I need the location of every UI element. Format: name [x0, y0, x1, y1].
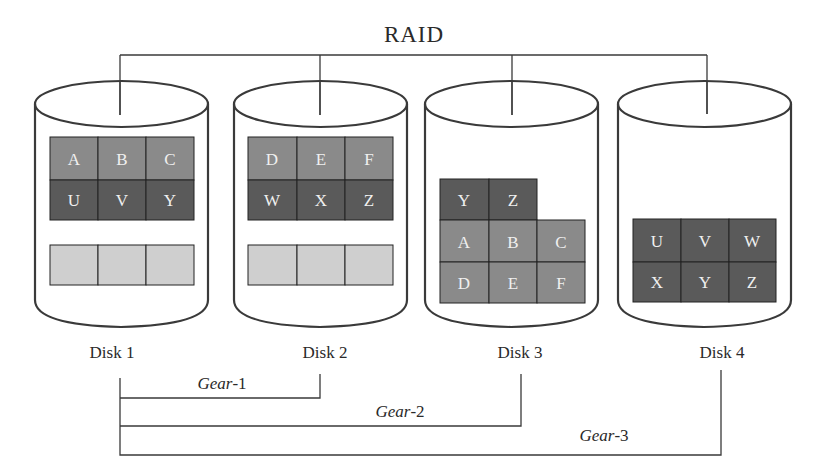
empty-block [248, 245, 297, 285]
block-label: E [508, 274, 518, 293]
disk-3: Y Z A B C D E F Disk 3 [425, 81, 598, 362]
block-label: Z [747, 273, 757, 292]
disk-2: D E F W X Z Disk 2 [234, 81, 407, 362]
gear-2-label: Gear-2 [375, 402, 424, 421]
disk-label: Disk 2 [303, 343, 348, 362]
block-label: A [68, 150, 81, 169]
gear-3-label: Gear-3 [579, 426, 628, 445]
disk-4: U V W X Y Z Disk 4 [618, 81, 791, 362]
disk-1: A B C U V Y Disk 1 [35, 81, 208, 362]
block-label: B [116, 150, 127, 169]
empty-block [297, 245, 345, 285]
block-label: D [458, 274, 470, 293]
empty-block [50, 245, 98, 285]
empty-block [98, 245, 146, 285]
disk-label: Disk 1 [90, 343, 135, 362]
block-label: Z [508, 191, 518, 210]
block-label: E [316, 150, 326, 169]
block-label: C [164, 150, 175, 169]
block-label: X [651, 273, 663, 292]
block-label: A [458, 233, 471, 252]
block-label: Z [364, 191, 374, 210]
block-label: B [507, 233, 518, 252]
block-label: U [651, 232, 663, 251]
block-label: V [699, 232, 712, 251]
block-label: W [744, 232, 761, 251]
empty-block [345, 245, 393, 285]
block-label: X [315, 191, 327, 210]
block-label: Y [458, 191, 470, 210]
disk-label: Disk 3 [498, 343, 543, 362]
disk-label: Disk 4 [700, 343, 745, 362]
raid-title: RAID [384, 22, 444, 47]
block-label: Y [699, 273, 711, 292]
block-label: C [555, 233, 566, 252]
block-label: F [364, 150, 373, 169]
block-label: F [556, 274, 565, 293]
block-label: U [68, 191, 80, 210]
empty-block [146, 245, 194, 285]
block-label: W [264, 191, 281, 210]
block-label: D [266, 150, 278, 169]
block-label: Y [164, 191, 176, 210]
gear-1-label: Gear-1 [197, 374, 246, 393]
raid-diagram: RAID A B C U V Y Disk 1 [0, 0, 821, 475]
block-label: V [116, 191, 129, 210]
